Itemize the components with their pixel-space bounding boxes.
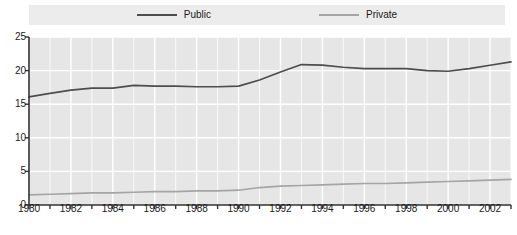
line-swatch-icon <box>137 14 177 16</box>
x-axis-tick-label: 1984 <box>102 204 124 214</box>
plot-background <box>29 37 511 205</box>
line-swatch-icon <box>319 14 359 16</box>
y-axis-tick-label: 15 <box>0 99 26 109</box>
y-axis-tick-label: 5 <box>0 166 26 176</box>
plot-area: 0510152025 19801982198419861988199019921… <box>0 32 517 235</box>
x-axis-tick-label: 1998 <box>395 204 417 214</box>
x-axis-tick-label: 1982 <box>60 204 82 214</box>
x-axis-tick-label: 1986 <box>144 204 166 214</box>
chart-legend: Public Private <box>29 5 505 25</box>
x-axis-tick-label: 1990 <box>227 204 249 214</box>
x-axis-tick-label: 1994 <box>311 204 333 214</box>
x-axis-tick-label: 1996 <box>353 204 375 214</box>
x-axis-tick-label: 1992 <box>269 204 291 214</box>
y-axis-tick-labels: 0510152025 <box>0 32 26 200</box>
y-axis-tick-label: 20 <box>0 66 26 76</box>
legend-label-private: Private <box>366 10 397 20</box>
x-axis-tick-label: 1988 <box>186 204 208 214</box>
y-axis-tick-label: 10 <box>0 133 26 143</box>
x-axis-tick-label: 1980 <box>18 204 40 214</box>
x-axis-tick-labels: 1980198219841986198819901992199419961998… <box>0 204 517 224</box>
line-chart: Public Private 0510152025 19801982198419… <box>0 0 517 235</box>
x-axis-tick-label: 2002 <box>479 204 501 214</box>
x-axis-tick-label: 2000 <box>437 204 459 214</box>
legend-item-private[interactable]: Private <box>319 10 397 20</box>
legend-label-public: Public <box>184 10 211 20</box>
y-axis-tick-label: 25 <box>0 32 26 42</box>
legend-item-public[interactable]: Public <box>137 10 211 20</box>
